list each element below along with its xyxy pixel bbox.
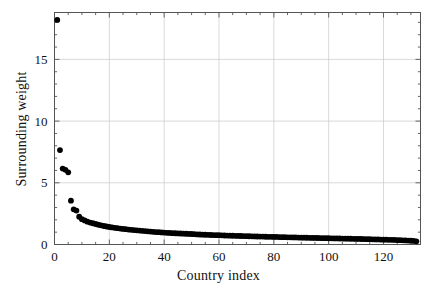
svg-text:5: 5 — [41, 175, 48, 190]
y-axis-title-wrapper: Surrounding weight — [14, 19, 34, 239]
svg-text:0: 0 — [51, 249, 58, 264]
svg-text:0: 0 — [41, 237, 48, 252]
svg-text:60: 60 — [212, 249, 225, 264]
svg-text:20: 20 — [103, 249, 116, 264]
svg-text:15: 15 — [35, 52, 48, 67]
svg-text:40: 40 — [158, 249, 171, 264]
plot-canvas: 020406080100120051015 — [0, 0, 437, 301]
y-axis-title: Surrounding weight — [14, 19, 30, 239]
svg-text:80: 80 — [267, 249, 280, 264]
svg-text:120: 120 — [374, 249, 394, 264]
svg-text:10: 10 — [35, 114, 48, 129]
x-axis-title: Country index — [0, 268, 437, 284]
svg-text:100: 100 — [319, 249, 339, 264]
scatter-plot-figure: 020406080100120051015 Country index Surr… — [0, 0, 437, 301]
